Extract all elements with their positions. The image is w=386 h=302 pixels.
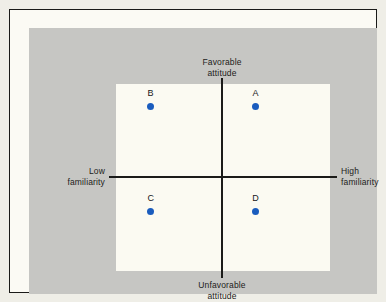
- data-point-label: D: [244, 193, 268, 203]
- data-point-label: C: [139, 193, 163, 203]
- axis-label-left-line2: familiarity: [53, 177, 105, 188]
- axis-label-top-line2: attitude: [29, 68, 386, 79]
- axis-label-right: High familiarity: [341, 166, 386, 187]
- vertical-axis-line: [221, 78, 223, 278]
- chart-panel: Favorable attitude Unfavorable attitude …: [29, 28, 377, 294]
- axis-label-right-line2: familiarity: [341, 177, 386, 188]
- horizontal-axis-line: [109, 176, 337, 178]
- axis-label-left-line1: Low: [53, 166, 105, 177]
- axis-label-bottom-line1: Unfavorable: [29, 280, 386, 291]
- data-point-label: A: [244, 88, 268, 98]
- axis-label-left: Low familiarity: [53, 166, 105, 187]
- axis-label-bottom: Unfavorable attitude: [29, 280, 386, 301]
- axis-label-top: Favorable attitude: [29, 57, 386, 78]
- figure-page: Favorable attitude Unfavorable attitude …: [0, 0, 386, 302]
- axis-label-right-line1: High: [341, 166, 386, 177]
- axis-label-bottom-line2: attitude: [29, 291, 386, 302]
- axis-label-top-line1: Favorable: [29, 57, 386, 68]
- data-point-label: B: [139, 88, 163, 98]
- figure-frame: Favorable attitude Unfavorable attitude …: [9, 9, 377, 293]
